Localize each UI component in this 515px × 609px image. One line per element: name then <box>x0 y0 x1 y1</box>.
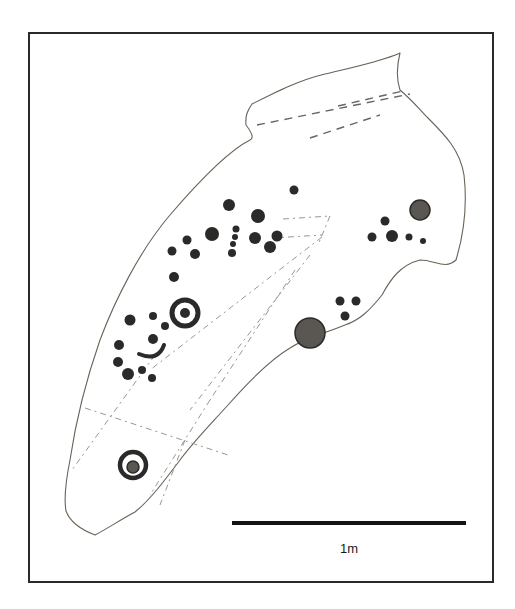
large-cupmark-center <box>295 318 325 348</box>
rock-outline <box>65 53 465 535</box>
scale-label: 1m <box>340 541 358 556</box>
large-cupmark-east <box>410 200 430 220</box>
rock-panel-figure: 1m <box>0 0 515 609</box>
